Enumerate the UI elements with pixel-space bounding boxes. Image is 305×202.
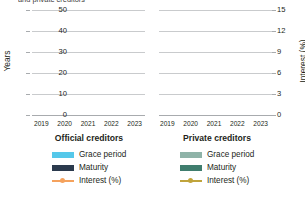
swatch-icon-private-interest — [180, 178, 202, 184]
xtick-left-2020: 2020 — [57, 120, 72, 130]
xtick-right-2022: 2022 — [230, 120, 245, 130]
ytick-label-right-3: 3 — [277, 90, 299, 98]
xtick-left-2022: 2022 — [104, 120, 119, 130]
legend-label-private-grace-period: Grace period — [207, 150, 254, 160]
ytick-label-left-40: 40 — [45, 27, 67, 35]
swatch-icon-official-interest — [52, 178, 74, 184]
swatch-icon-private-grace-period — [180, 152, 202, 158]
legend-item-private-interest[interactable]: Interest (%) — [152, 174, 282, 187]
legend-item-official-maturity[interactable]: Maturity — [24, 161, 154, 174]
xtick-right-2020: 2020 — [183, 120, 198, 130]
ytick-label-right-12: 12 — [277, 27, 299, 35]
legend-label-official-grace-period: Grace period — [79, 150, 126, 160]
xtick-left-2019: 2019 — [34, 120, 49, 130]
ytick-label-left-30: 30 — [45, 48, 67, 56]
swatch-icon-private-maturity — [180, 165, 202, 171]
ytick-dash-right-6 — [272, 73, 276, 74]
ytick-label-right-15: 15 — [277, 6, 299, 14]
legend-label-official-interest: Interest (%) — [79, 176, 121, 186]
ytick-label-left-20: 20 — [45, 69, 67, 77]
xtick-right-2023: 2023 — [253, 120, 268, 130]
xtick-right-2019: 2019 — [160, 120, 175, 130]
ytick-dash-right-9 — [272, 52, 276, 53]
panel-separator — [145, 10, 159, 118]
ytick-label-right-0: 0 — [277, 111, 299, 119]
ytick-dash-left-20 — [26, 73, 30, 74]
chart-figure: and private creditors 50 40 30 20 10 0 1… — [0, 0, 305, 202]
legend-item-private-maturity[interactable]: Maturity — [152, 161, 282, 174]
xtick-left-2021: 2021 — [81, 120, 96, 130]
legend-item-official-grace-period[interactable]: Grace period — [24, 148, 154, 161]
swatch-icon-official-grace-period — [52, 152, 74, 158]
y-axis-right-title: Interest (%) — [298, 30, 305, 92]
legend-item-private-grace-period[interactable]: Grace period — [152, 148, 282, 161]
legend-label-official-maturity: Maturity — [79, 163, 108, 173]
legend-label-private-interest: Interest (%) — [207, 176, 249, 186]
ytick-dash-left-10 — [26, 94, 30, 95]
chart-title-clipped: and private creditors — [18, 0, 288, 4]
ytick-label-left-50: 50 — [45, 6, 67, 14]
legend-official-title: Official creditors — [24, 133, 154, 143]
legend-label-private-maturity: Maturity — [207, 163, 236, 173]
swatch-icon-official-maturity — [52, 165, 74, 171]
x-axis-left-panel: 2019 2020 2021 2022 2023 — [34, 120, 142, 130]
xtick-right-2021: 2021 — [207, 120, 222, 130]
ytick-label-right-9: 9 — [277, 48, 299, 56]
ytick-label-left-0: 0 — [45, 111, 67, 119]
xtick-left-2023: 2023 — [127, 120, 142, 130]
ytick-dash-right-0 — [272, 115, 276, 116]
ytick-label-right-6: 6 — [277, 69, 299, 77]
ytick-dash-left-0 — [26, 115, 30, 116]
legend-official-creditors: Official creditors Grace period Maturity… — [24, 133, 154, 187]
legend-private-creditors: Private creditors Grace period Maturity … — [152, 133, 282, 187]
ytick-dash-right-12 — [272, 31, 276, 32]
ytick-dash-left-30 — [26, 52, 30, 53]
ytick-dash-right-15 — [272, 10, 276, 11]
y-axis-left-title: Years — [2, 38, 12, 84]
x-axis-right-panel: 2019 2020 2021 2022 2023 — [160, 120, 268, 130]
ytick-dash-left-40 — [26, 31, 30, 32]
legend-private-title: Private creditors — [152, 133, 282, 143]
chart-title-text: and private creditors — [18, 0, 288, 4]
ytick-label-left-10: 10 — [45, 90, 67, 98]
ytick-dash-right-3 — [272, 94, 276, 95]
plot-area — [32, 10, 272, 118]
ytick-dash-left-50 — [26, 10, 30, 11]
legend-item-official-interest[interactable]: Interest (%) — [24, 174, 154, 187]
